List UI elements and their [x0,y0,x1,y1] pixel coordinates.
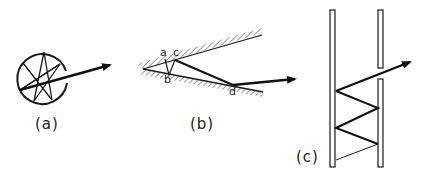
diagram-figure: (a) (b) (c) a b c d [0,0,427,177]
point-b-label: b [164,73,171,86]
point-c-label: c [173,46,179,59]
point-d-label: d [229,85,236,98]
panel-a-cavity [17,52,110,104]
point-a-label: a [160,46,167,59]
panel-a-label: (a) [35,115,59,133]
panel-c-tube [330,10,410,167]
diagram-drawing [0,0,427,177]
panel-b-label: (b) [190,115,214,133]
panel-b-wedge [136,28,295,97]
panel-c-label: (c) [296,148,319,166]
